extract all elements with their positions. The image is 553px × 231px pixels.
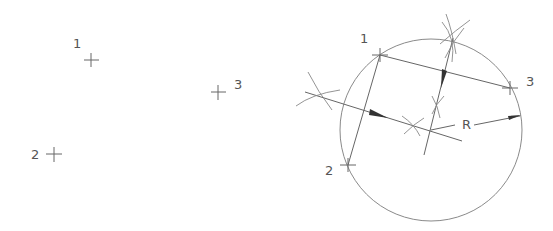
left-panel: 1 2 3 [31,36,242,162]
radius-leader-short [431,125,455,130]
bisector-1-3 [424,38,453,155]
radius-label: R [462,117,471,132]
construction-arcs-left [296,72,340,110]
point-1-marker [84,53,99,67]
right-point-1-marker [372,48,388,62]
circle-construction-diagram: 1 2 3 [0,0,553,231]
right-point-3-label: 3 [526,74,534,89]
point-3-marker [211,85,226,100]
right-point-2-label: 2 [325,163,333,178]
right-panel: R 1 2 3 [296,14,534,221]
right-point-2-marker [340,158,356,172]
point-2-label: 2 [31,147,39,162]
point-2-marker [46,147,62,162]
construction-arcs-center-left [402,116,424,136]
right-point-1-label: 1 [360,31,368,46]
right-point-3-marker [502,81,518,95]
point-3-label: 3 [234,77,242,92]
arrowhead-bisector-1-3 [441,69,447,88]
arrowhead-bisector-1-2 [369,109,388,118]
radius-arrowhead [508,115,521,120]
construction-arcs-top [440,14,470,62]
point-1-label: 1 [73,36,81,51]
